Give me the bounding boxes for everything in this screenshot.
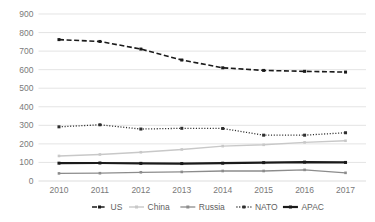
data-point-marker: [221, 170, 224, 173]
x-tick-label: 2010: [50, 185, 69, 195]
x-axis-tick-labels: 20102011201220132014201520162017: [50, 185, 356, 195]
legend-marker-apac: [289, 206, 292, 209]
x-tick-label: 2014: [213, 185, 232, 195]
series-line-apac: [59, 162, 346, 163]
data-point-marker: [344, 161, 347, 164]
data-point-marker: [180, 127, 183, 130]
data-point-marker: [303, 134, 306, 137]
legend-marker-china: [135, 206, 138, 209]
data-point-marker: [180, 162, 183, 165]
y-tick-label: 900: [19, 9, 33, 19]
data-point-marker: [140, 151, 143, 154]
data-point-marker: [303, 161, 306, 164]
data-point-marker: [221, 127, 224, 130]
data-point-marker: [180, 148, 183, 151]
data-point-marker: [344, 139, 347, 142]
data-point-marker: [262, 69, 265, 72]
chart-legend: USChinaRussiaNATOAPAC: [92, 202, 324, 212]
data-point-marker: [58, 155, 61, 158]
data-point-marker: [221, 145, 224, 148]
x-tick-label: 2017: [336, 185, 355, 195]
legend-marker-russia: [186, 206, 189, 209]
data-point-marker: [344, 71, 347, 74]
line-chart: 0100200300400500600700800900 20102011201…: [0, 0, 375, 222]
legend-label-russia: Russia: [199, 202, 225, 212]
data-point-marker: [99, 172, 102, 175]
data-point-marker: [180, 59, 183, 62]
y-axis-tick-labels: 0100200300400500600700800900: [19, 9, 33, 186]
y-tick-label: 500: [19, 83, 33, 93]
data-point-marker: [139, 162, 142, 165]
y-tick-label: 600: [19, 65, 33, 75]
data-point-marker: [57, 162, 60, 165]
series-line-russia: [59, 170, 346, 174]
data-point-marker: [57, 38, 60, 41]
y-tick-label: 200: [19, 139, 33, 149]
data-point-marker: [140, 171, 143, 174]
y-tick-label: 800: [19, 28, 33, 38]
data-point-marker: [180, 171, 183, 174]
data-point-marker: [344, 172, 347, 175]
data-point-marker: [57, 125, 60, 128]
data-series-group: [57, 38, 347, 175]
x-tick-label: 2015: [254, 185, 273, 195]
legend-marker-nato: [242, 206, 245, 209]
y-tick-label: 400: [19, 102, 33, 112]
y-tick-label: 100: [19, 157, 33, 167]
y-tick-label: 0: [29, 176, 34, 186]
legend-marker-us: [98, 206, 101, 209]
data-point-marker: [262, 161, 265, 164]
legend-label-us: US: [111, 202, 123, 212]
y-tick-label: 700: [19, 46, 33, 56]
data-point-marker: [303, 169, 306, 172]
x-tick-label: 2013: [172, 185, 191, 195]
data-point-marker: [262, 144, 265, 147]
data-point-marker: [303, 70, 306, 73]
data-point-marker: [99, 153, 102, 156]
data-point-marker: [139, 48, 142, 51]
data-point-marker: [98, 162, 101, 165]
legend-label-apac: APAC: [301, 202, 324, 212]
chart-canvas: 0100200300400500600700800900 20102011201…: [0, 0, 375, 222]
data-point-marker: [262, 134, 265, 137]
data-point-marker: [98, 123, 101, 126]
data-point-marker: [221, 162, 224, 165]
y-tick-label: 300: [19, 120, 33, 130]
data-point-marker: [344, 131, 347, 134]
data-point-marker: [262, 170, 265, 173]
series-line-us: [59, 40, 346, 72]
legend-label-china: China: [148, 202, 170, 212]
data-point-marker: [221, 66, 224, 69]
x-tick-label: 2016: [295, 185, 314, 195]
x-tick-label: 2012: [131, 185, 150, 195]
data-point-marker: [139, 128, 142, 131]
data-point-marker: [98, 40, 101, 43]
gridlines: [39, 14, 367, 181]
x-tick-label: 2011: [91, 185, 110, 195]
series-line-nato: [59, 125, 346, 135]
series-line-china: [59, 141, 346, 156]
data-point-marker: [303, 141, 306, 144]
legend-label-nato: NATO: [255, 202, 278, 212]
data-point-marker: [58, 172, 61, 175]
